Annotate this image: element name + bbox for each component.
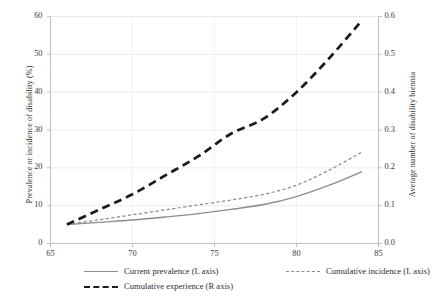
legend-label: Cumulative incidence (L axis): [326, 266, 430, 276]
right-tick-label: 0.3: [385, 125, 413, 134]
solid-line-swatch-icon: [84, 266, 118, 276]
right-tick-label: 0.6: [385, 11, 413, 20]
x-tick-label: 85: [366, 249, 392, 258]
right-tick-label: 0.4: [385, 87, 413, 96]
right-tick-label: 0.5: [385, 49, 413, 58]
chart-figure: Prevalence or incidence of disability (%…: [0, 0, 433, 303]
legend-label: Cumulative experience (R axis): [124, 281, 233, 291]
legend-item-cumulative-incidence: Cumulative incidence (L axis): [286, 266, 430, 276]
x-tick-label: 75: [202, 249, 228, 258]
x-tick-label: 80: [284, 249, 310, 258]
left-tick-label: 30: [19, 125, 43, 134]
right-tick-label: 0.1: [385, 200, 413, 209]
left-tick-label: 10: [19, 200, 43, 209]
chart-plot-area: [0, 0, 433, 303]
left-tick-label: 0: [19, 238, 43, 247]
chart-legend: Current prevalence (L axis) Cumulative i…: [54, 266, 414, 300]
x-tick-label: 70: [120, 249, 146, 258]
right-tick-label: 0.2: [385, 162, 413, 171]
x-tick-label: 65: [38, 249, 64, 258]
left-tick-label: 60: [19, 11, 43, 20]
left-tick-label: 40: [19, 87, 43, 96]
legend-label: Current prevalence (L axis): [124, 266, 218, 276]
right-tick-label: 0.0: [385, 238, 413, 247]
dashed-thick-line-swatch-icon: [84, 281, 118, 291]
left-tick-label: 20: [19, 162, 43, 171]
dashed-thin-line-swatch-icon: [286, 266, 320, 276]
legend-item-cumulative-experience: Cumulative experience (R axis): [84, 281, 233, 291]
left-tick-label: 50: [19, 49, 43, 58]
legend-item-current-prevalence: Current prevalence (L axis): [84, 266, 218, 276]
